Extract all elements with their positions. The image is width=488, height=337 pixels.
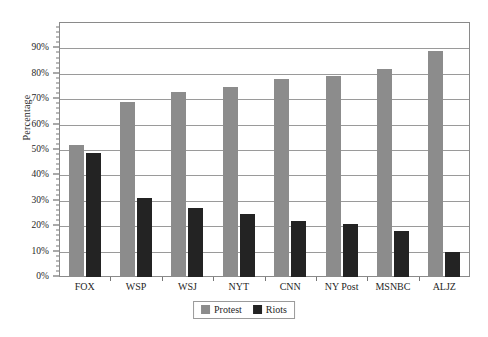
bar-riots bbox=[86, 153, 101, 277]
legend-label: Riots bbox=[266, 304, 287, 315]
bar-protest bbox=[120, 102, 135, 277]
bar-riots bbox=[343, 224, 358, 277]
x-axis-tick bbox=[367, 277, 368, 281]
x-axis-tick-label: NYT bbox=[229, 281, 250, 292]
y-axis-tick-label: 80% bbox=[32, 68, 49, 78]
bar-riots bbox=[445, 252, 460, 277]
x-axis-tick-labels: FOXWSPWSJNYTCNNNY PostMSNBCALJZ bbox=[59, 281, 470, 299]
x-axis-tick-label: MSNBC bbox=[375, 281, 410, 292]
x-axis-tick bbox=[213, 277, 214, 281]
x-axis-tick-label: CNN bbox=[280, 281, 301, 292]
legend-item: Protest bbox=[201, 304, 242, 315]
y-axis-tick-labels: 0%10%20%30%40%50%60%70%80%90% bbox=[0, 22, 59, 277]
x-axis-tick-label: WSP bbox=[126, 281, 147, 292]
bar-protest bbox=[223, 87, 238, 278]
y-axis-tick-label: 60% bbox=[32, 119, 49, 129]
y-axis-tick-label: 20% bbox=[32, 220, 49, 230]
bar-riots bbox=[137, 198, 152, 277]
bar-chart: Percentage 0%10%20%30%40%50%60%70%80%90%… bbox=[0, 0, 488, 337]
x-axis-tick bbox=[265, 277, 266, 281]
x-axis-tick bbox=[110, 277, 111, 281]
bar-protest bbox=[326, 76, 341, 277]
bar-protest bbox=[428, 51, 443, 277]
bar-riots bbox=[240, 214, 255, 278]
legend-item: Riots bbox=[253, 304, 287, 315]
x-axis-tick-label: FOX bbox=[75, 281, 95, 292]
y-axis-tick-label: 10% bbox=[32, 246, 49, 256]
bar-riots bbox=[188, 208, 203, 277]
x-axis-tick-label: NY Post bbox=[325, 281, 359, 292]
legend-swatch-icon bbox=[253, 305, 262, 314]
legend-label: Protest bbox=[214, 304, 242, 315]
legend-swatch-icon bbox=[201, 305, 210, 314]
legend: ProtestRiots bbox=[193, 301, 295, 319]
y-axis-tick-label: 40% bbox=[32, 169, 49, 179]
x-axis-tick-label: WSJ bbox=[178, 281, 197, 292]
x-axis-tick-label: ALJZ bbox=[433, 281, 456, 292]
bar-riots bbox=[394, 231, 409, 277]
bar-protest bbox=[377, 69, 392, 277]
y-axis-tick-label: 70% bbox=[32, 93, 49, 103]
bars-layer bbox=[59, 22, 470, 277]
y-axis-tick-label: 0% bbox=[36, 271, 49, 281]
bar-riots bbox=[291, 221, 306, 277]
y-axis-tick-label: 50% bbox=[32, 144, 49, 154]
y-axis-tick-label: 90% bbox=[32, 42, 49, 52]
x-axis-tick bbox=[162, 277, 163, 281]
x-axis-tick bbox=[316, 277, 317, 281]
bar-protest bbox=[69, 145, 84, 277]
bar-protest bbox=[274, 79, 289, 277]
x-axis-tick bbox=[419, 277, 420, 281]
y-axis-tick-label: 30% bbox=[32, 195, 49, 205]
bar-protest bbox=[171, 92, 186, 277]
